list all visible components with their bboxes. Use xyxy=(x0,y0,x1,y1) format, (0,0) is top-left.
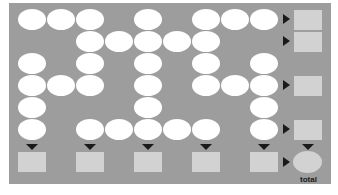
grid-cell[interactable] xyxy=(134,9,162,30)
arrow-right-icon xyxy=(283,14,290,24)
grid-cell[interactable] xyxy=(134,97,162,118)
arrow-right-icon xyxy=(283,80,290,90)
grid-cell[interactable] xyxy=(76,9,104,30)
grid-cell[interactable] xyxy=(76,119,104,140)
column-sum-box[interactable] xyxy=(18,152,46,172)
grid-cell[interactable] xyxy=(163,119,191,140)
grid-cell[interactable] xyxy=(76,53,104,74)
grid-cell[interactable] xyxy=(192,53,220,74)
arrow-down-icon xyxy=(84,144,96,150)
grid-cell[interactable] xyxy=(105,119,133,140)
grid-cell[interactable] xyxy=(192,31,220,52)
grid-cell[interactable] xyxy=(192,9,220,30)
arrow-right-icon xyxy=(283,36,290,46)
row-sum-box[interactable] xyxy=(294,120,322,140)
arrow-right-icon xyxy=(283,157,290,167)
grid-cell[interactable] xyxy=(18,119,46,140)
column-sum-box[interactable] xyxy=(76,152,104,172)
row-sum-box[interactable] xyxy=(294,10,322,30)
total-circle[interactable] xyxy=(293,151,322,173)
grid-cell[interactable] xyxy=(221,9,249,30)
arrow-down-icon xyxy=(200,144,212,150)
row-sum-box[interactable] xyxy=(294,32,322,52)
column-sum-box[interactable] xyxy=(134,152,162,172)
grid-cell[interactable] xyxy=(18,9,46,30)
column-sum-box[interactable] xyxy=(250,152,278,172)
grid-cell[interactable] xyxy=(192,75,220,96)
grid-cell[interactable] xyxy=(18,97,46,118)
grid-cell[interactable] xyxy=(250,9,278,30)
grid-cell[interactable] xyxy=(47,75,75,96)
grid-cell[interactable] xyxy=(134,119,162,140)
grid-cell[interactable] xyxy=(105,31,133,52)
arrow-down-icon xyxy=(258,144,270,150)
grid-cell[interactable] xyxy=(18,75,46,96)
grid-cell[interactable] xyxy=(76,31,104,52)
grid-cell[interactable] xyxy=(76,75,104,96)
grid-cell[interactable] xyxy=(18,53,46,74)
grid-cell[interactable] xyxy=(163,31,191,52)
arrow-down-icon xyxy=(142,144,154,150)
total-label: total xyxy=(300,175,317,184)
grid-cell[interactable] xyxy=(250,97,278,118)
grid-cell[interactable] xyxy=(250,53,278,74)
grid-cell[interactable] xyxy=(250,119,278,140)
grid-cell[interactable] xyxy=(250,75,278,96)
grid-cell[interactable] xyxy=(134,53,162,74)
column-sum-box[interactable] xyxy=(192,152,220,172)
grid-cell[interactable] xyxy=(192,119,220,140)
row-sum-box[interactable] xyxy=(294,76,322,96)
arrow-down-icon xyxy=(302,144,314,150)
grid-cell[interactable] xyxy=(134,75,162,96)
arrow-right-icon xyxy=(283,124,290,134)
grid-cell[interactable] xyxy=(134,31,162,52)
grid-cell[interactable] xyxy=(221,75,249,96)
grid-cell[interactable] xyxy=(47,9,75,30)
arrow-down-icon xyxy=(26,144,38,150)
